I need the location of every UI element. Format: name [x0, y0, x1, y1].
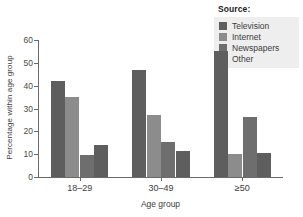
bar [80, 155, 94, 177]
y-tick-mark [34, 63, 38, 64]
y-tick-label: 0 [17, 172, 33, 182]
bar [214, 51, 228, 177]
bar [94, 145, 108, 177]
y-tick-label: 20 [17, 126, 33, 136]
x-tick-label: 18–29 [67, 183, 92, 193]
y-tick-mark [34, 154, 38, 155]
y-tick-mark [34, 40, 38, 41]
bar [51, 81, 65, 177]
x-tick-mark [242, 177, 243, 181]
legend-title: Source: [218, 4, 300, 14]
y-tick-label: 60 [17, 35, 33, 45]
y-tick-label: 10 [17, 149, 33, 159]
x-tick-label: ≥50 [235, 183, 250, 193]
legend-item-television: Television [219, 21, 295, 31]
y-tick-mark [34, 86, 38, 87]
x-axis-title: Age group [38, 199, 283, 209]
bars-container [39, 40, 283, 177]
bar [176, 151, 190, 177]
x-tick-mark [161, 177, 162, 181]
x-tick-mark [80, 177, 81, 181]
bar [228, 154, 242, 177]
y-tick-mark [34, 177, 38, 178]
x-tick-label: 30–49 [148, 183, 173, 193]
bar-chart: Source: Television Internet Newspapers O… [0, 0, 303, 217]
legend-label-television: Television [232, 21, 269, 31]
legend-swatch-television [219, 22, 227, 30]
y-tick-label: 50 [17, 58, 33, 68]
y-axis-tick-labels: 0102030405060 [17, 0, 33, 217]
y-axis-title-text: Percentage within age group [5, 55, 14, 160]
y-tick-label: 40 [17, 81, 33, 91]
y-axis-title: Percentage within age group [2, 36, 16, 178]
y-tick-mark [34, 131, 38, 132]
y-tick-label: 30 [17, 104, 33, 114]
bar [65, 97, 79, 177]
bar [132, 70, 146, 177]
bar [243, 117, 257, 178]
bar [161, 142, 175, 177]
bar [147, 115, 161, 177]
y-tick-mark [34, 109, 38, 110]
bar [257, 153, 271, 177]
